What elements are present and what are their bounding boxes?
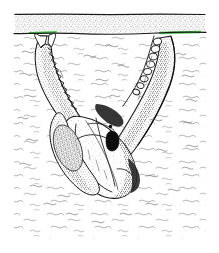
sediment-band <box>15 15 205 33</box>
illustration-canvas <box>0 0 219 253</box>
figure-plate: Mandible in situ pen-and-ink stipple lin… <box>0 0 219 253</box>
mental-foramen <box>106 131 119 151</box>
foramen-pit <box>109 125 113 129</box>
